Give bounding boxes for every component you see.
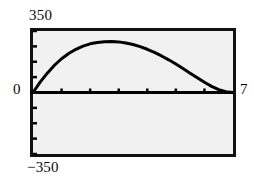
graph-figure: 350 0 7 −350: [0, 0, 254, 180]
y-axis-max-label: 350: [29, 8, 52, 23]
y-axis-min-label: −350: [27, 160, 59, 175]
origin-label: 0: [13, 82, 21, 97]
x-axis-max-label: 7: [240, 82, 248, 97]
plot-frame: [30, 28, 236, 157]
